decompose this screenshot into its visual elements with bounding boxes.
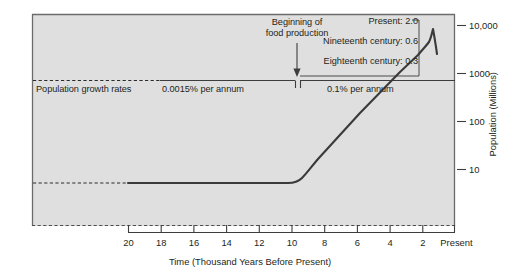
- x-axis: [128, 225, 455, 233]
- rate-detail-nineteenth-century: Nineteenth century: 0.6: [323, 36, 418, 46]
- rate-detail-list: Present: 2.0 Nineteenth century: 0.6 Eig…: [300, 16, 418, 78]
- y-tick-label-10000: 10,000: [469, 20, 498, 31]
- x-tick-label-20: 20: [112, 237, 146, 248]
- x-tick-label-18: 18: [144, 237, 178, 248]
- x-axis-title: Time (Thousand Years Before Present): [120, 256, 380, 267]
- annotation-rate-left: 0.0015% per annum: [162, 84, 244, 95]
- x-tick-label-14: 14: [210, 237, 244, 248]
- x-tick-label-present: Present: [435, 237, 479, 248]
- x-tick-label-16: 16: [177, 237, 211, 248]
- x-tick-label-6: 6: [340, 237, 374, 248]
- x-tick-label-12: 12: [242, 237, 276, 248]
- annotation-rate-right: 0.1% per annum: [327, 84, 394, 95]
- y-axis-title: Population (Millions): [487, 72, 498, 156]
- population-growth-figure: Beginning of food production Population …: [0, 0, 522, 273]
- chart-canvas: [0, 0, 522, 273]
- x-tick-label-10: 10: [275, 237, 309, 248]
- x-tick-label-8: 8: [308, 237, 342, 248]
- y-axis-ticks: [457, 26, 466, 170]
- annotation-growth-rates-label: Population growth rates: [36, 84, 131, 95]
- rate-detail-present: Present: 2.0: [368, 16, 418, 26]
- x-tick-label-4: 4: [373, 237, 407, 248]
- y-tick-label-10: 10: [469, 164, 479, 175]
- rate-detail-eighteenth-century: Eighteenth century: 0.3: [324, 56, 419, 66]
- y-tick-label-100: 100: [469, 116, 485, 127]
